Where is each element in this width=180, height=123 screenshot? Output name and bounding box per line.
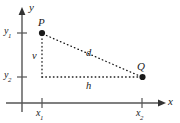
dotted-triangle: [42, 34, 142, 77]
segment-v-label: v: [32, 51, 37, 62]
segment-h-label: h: [86, 81, 91, 92]
figure-canvas: [0, 0, 180, 123]
distance-formula-figure: y x P Q d v h y1 y2 x1 x2: [0, 0, 180, 123]
point-P-dot: [39, 30, 45, 36]
y-axis: [19, 7, 26, 112]
axis-ticks: [17, 33, 142, 108]
segment-d-label: d: [86, 48, 91, 59]
point-Q-dot: [139, 74, 145, 80]
tick-label-y1: y1: [4, 26, 12, 39]
segment-d: [43, 34, 142, 77]
tick-label-x2: x2: [136, 108, 144, 121]
point-Q-label: Q: [137, 61, 145, 72]
tick-label-y2-sub: 2: [8, 76, 11, 83]
y-axis-label: y: [29, 2, 34, 13]
tick-label-y1-sub: 1: [8, 32, 11, 39]
point-P-label: P: [38, 17, 45, 28]
tick-label-x1-sub: 1: [40, 114, 43, 121]
tick-label-x2-sub: 2: [140, 114, 143, 121]
tick-label-x1: x1: [36, 108, 44, 121]
x-axis-label: x: [168, 96, 173, 107]
tick-label-y2: y2: [4, 70, 12, 83]
